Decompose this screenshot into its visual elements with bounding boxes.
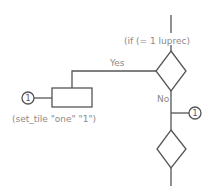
yes-edge bbox=[72, 71, 156, 88]
no-label: No bbox=[157, 94, 170, 104]
connector-left-label: 1 bbox=[25, 94, 30, 103]
decision1-diamond[interactable] bbox=[156, 51, 186, 91]
flowchart-canvas: (if (= 1 luprec) Yes (set_tile "one" "1"… bbox=[0, 0, 218, 196]
process1-box[interactable] bbox=[52, 88, 92, 107]
decision1-label: (if (= 1 luprec) bbox=[124, 36, 190, 46]
process1-label: (set_tile "one" "1") bbox=[12, 114, 96, 124]
decision2-diamond[interactable] bbox=[157, 130, 186, 168]
connector-right-label: 1 bbox=[192, 109, 197, 118]
yes-label: Yes bbox=[109, 58, 125, 68]
